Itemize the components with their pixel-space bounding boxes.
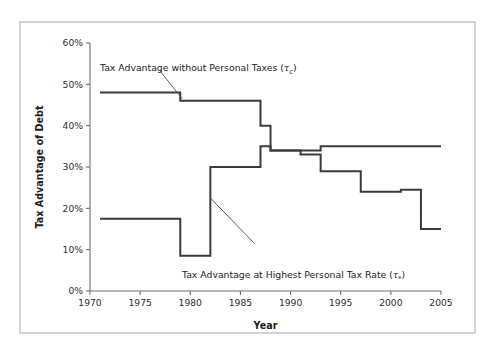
y-tick-label: 50% <box>63 79 84 90</box>
figure-root: 0%10%20%30%40%50%60% 1970197519801985199… <box>0 0 495 354</box>
annotation-tau-star: Tax Advantage at Highest Personal Tax Ra… <box>181 269 405 283</box>
x-tick-label: 1975 <box>128 297 152 308</box>
annotations: Tax Advantage without Personal Taxes (τc… <box>99 62 405 283</box>
y-tick-label: 30% <box>63 161 84 172</box>
annotation-tau-star-prefix: Tax Advantage at Highest Personal Tax Ra… <box>181 269 393 280</box>
tax-advantage-line-chart: 0%10%20%30%40%50%60% 1970197519801985199… <box>21 23 474 332</box>
x-axis: 19701975198019851990199520002005 <box>78 291 453 308</box>
x-tick-label: 1990 <box>279 297 303 308</box>
y-tick-label: 60% <box>63 37 84 48</box>
series-line-tau-star <box>100 146 441 256</box>
y-tick-label: 40% <box>63 120 84 131</box>
x-tick-label: 1970 <box>78 297 102 308</box>
x-tick-label: 1985 <box>229 297 253 308</box>
annotation-tau-star-leader <box>210 198 254 243</box>
annotation-tau-c: Tax Advantage without Personal Taxes (τc… <box>99 62 297 76</box>
x-tick-label: 1980 <box>179 297 203 308</box>
y-axis-title: Tax Advantage of Debt <box>34 105 45 228</box>
y-tick-label: 10% <box>63 244 84 255</box>
figure-frame: 0%10%20%30%40%50%60% 1970197519801985199… <box>19 21 476 334</box>
y-axis: 0%10%20%30%40%50%60% <box>63 37 90 296</box>
series-line-tau-c <box>100 93 441 151</box>
annotation-tau-c-prefix: Tax Advantage without Personal Taxes ( <box>99 62 284 73</box>
y-tick-label: 20% <box>63 203 84 214</box>
x-tick-label: 2005 <box>429 297 453 308</box>
annotation-tau-c-suffix: ) <box>293 62 297 73</box>
x-tick-label: 1995 <box>329 297 353 308</box>
y-tick-label: 0% <box>68 285 83 296</box>
series-lines <box>100 93 441 256</box>
annotation-tau-c-leader <box>160 71 182 99</box>
x-tick-label: 2000 <box>379 297 403 308</box>
annotation-tau-star-suffix: ) <box>402 269 406 280</box>
x-axis-title: Year <box>253 320 278 331</box>
